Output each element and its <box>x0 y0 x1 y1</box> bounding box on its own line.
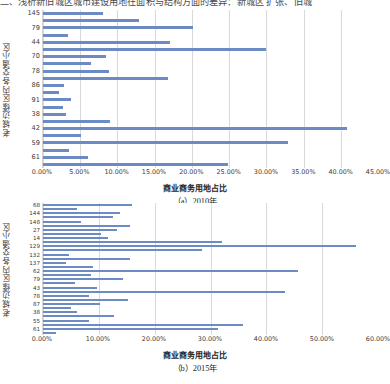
bar-row <box>43 96 378 103</box>
x-tick-label: 0.00% <box>32 335 52 343</box>
bar <box>43 328 218 330</box>
plot-area-a <box>42 10 378 168</box>
bar-row <box>43 53 378 60</box>
bar <box>43 225 130 227</box>
bar <box>43 287 97 289</box>
x-tick-label: 30.00% <box>198 335 222 343</box>
bar <box>43 295 89 297</box>
bar <box>43 106 63 109</box>
bar <box>43 34 68 37</box>
bar-row <box>43 132 378 139</box>
x-tick-label: 15.00% <box>142 168 166 176</box>
bar-row <box>43 60 378 67</box>
bar-row <box>43 161 378 168</box>
bar-row <box>43 46 378 53</box>
bar <box>43 311 77 313</box>
bar <box>43 299 128 301</box>
x-tick-label: 5.00% <box>69 168 89 176</box>
y-tick-label: 70 <box>16 53 40 60</box>
x-axis-tick-labels-a: 0.00%5.00%10.00%15.00%20.00%25.00%30.00%… <box>42 168 378 180</box>
bar-row <box>43 75 378 82</box>
bar <box>43 278 123 280</box>
bar-series-a <box>43 10 378 168</box>
bar <box>43 324 243 326</box>
bar <box>43 55 106 58</box>
y-axis-tick-labels-b: 6814414827141291321376279437887385561 <box>16 203 40 335</box>
bar <box>43 120 110 123</box>
bar <box>43 291 285 293</box>
figure-caption-b: （b）2015年 <box>0 361 390 373</box>
bar-row <box>43 82 378 89</box>
clipped-body-text: 二、浅析新旧城区城市建设用地在面积与结构方面的差异：新城区 扩张、旧城 <box>0 0 390 6</box>
bar <box>43 270 298 272</box>
x-tick-label: 35.00% <box>291 168 315 176</box>
bar <box>43 221 81 223</box>
bar-row <box>43 17 378 24</box>
bar <box>43 212 120 214</box>
bar <box>43 19 139 22</box>
y-axis-title-b: 老城边缘区内各交通小区 <box>0 203 14 335</box>
bar <box>43 98 71 101</box>
y-tick-label: 38 <box>16 111 40 118</box>
figure-2015: 老城边缘区内各交通小区 6814414827141291321376279437… <box>0 203 390 384</box>
bar <box>43 134 81 137</box>
bar <box>43 163 228 166</box>
x-tick-label: 25.00% <box>216 168 240 176</box>
bar <box>43 41 170 44</box>
bar-chart-2010: 老城边缘区内各交通小区 14579447078869138425961 0.00… <box>0 10 390 168</box>
x-tick-label: 50.00% <box>310 335 334 343</box>
y-axis-title-a: 老城边缘区内各交通小区 <box>0 10 14 168</box>
bar-row <box>43 89 378 96</box>
bar-row <box>43 10 378 17</box>
bar <box>43 315 114 317</box>
bar-row <box>43 125 378 132</box>
y-tick-label: 79 <box>16 24 40 31</box>
bar-row <box>43 68 378 75</box>
y-tick-label: 59 <box>16 139 40 146</box>
bar-row <box>43 111 378 118</box>
bar <box>43 229 117 231</box>
bar <box>43 84 64 87</box>
bar <box>43 258 130 260</box>
bar-row <box>43 32 378 39</box>
x-axis-tick-labels-b: 0.00%10.00%20.00%30.00%40.00%50.00%60.00… <box>42 335 378 347</box>
y-tick-label: 42 <box>16 125 40 132</box>
bar-row <box>43 103 378 110</box>
bar <box>43 149 69 152</box>
bar-row <box>43 154 378 161</box>
bar <box>43 307 71 309</box>
bar-row <box>43 139 378 146</box>
y-tick-label: 86 <box>16 82 40 89</box>
bar <box>43 91 59 94</box>
bar <box>43 237 108 239</box>
x-tick-label: 60.00% <box>366 335 390 343</box>
y-tick-label: 44 <box>16 39 40 46</box>
x-tick-label: 40.00% <box>254 335 278 343</box>
bar <box>43 141 288 144</box>
y-tick-label: 78 <box>16 68 40 75</box>
bar <box>43 274 91 276</box>
bar <box>43 62 91 65</box>
x-tick-label: 10.00% <box>86 335 110 343</box>
x-tick-label: 30.00% <box>254 168 278 176</box>
x-tick-label: 20.00% <box>142 335 166 343</box>
bar <box>43 249 202 251</box>
bar <box>43 262 66 264</box>
bar <box>43 303 100 305</box>
x-tick-label: 40.00% <box>328 168 352 176</box>
bar <box>43 241 222 243</box>
bar <box>43 266 93 268</box>
bar <box>43 12 103 15</box>
bar-series-b <box>43 203 378 335</box>
bar-row <box>43 118 378 125</box>
bar <box>43 127 347 130</box>
bar <box>43 204 132 206</box>
x-tick-label: 0.00% <box>32 168 52 176</box>
x-tick-label: 20.00% <box>179 168 203 176</box>
x-tick-label: 45.00% <box>366 168 390 176</box>
bar <box>43 113 66 116</box>
bar <box>43 254 69 256</box>
bar <box>43 216 113 218</box>
bar <box>43 208 77 210</box>
bar <box>43 233 101 235</box>
